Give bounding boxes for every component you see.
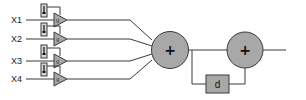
gain-amplifier-2: g — [54, 32, 67, 46]
svg-text:g: g — [56, 76, 59, 82]
input-channel-3: X3 g — [11, 45, 152, 68]
svg-text:g: g — [56, 36, 59, 42]
plus-icon: + — [164, 42, 176, 58]
input-label-x1: X1 — [11, 15, 22, 25]
delay-label: d — [215, 79, 221, 90]
input-channel-1: X1 g — [11, 4, 152, 40]
input-channel-2: X2 g — [11, 23, 152, 46]
svg-text:g: g — [56, 17, 59, 23]
input-label-x2: X2 — [11, 34, 22, 44]
input-label-x4: X4 — [11, 74, 22, 84]
svg-text:g: g — [56, 58, 59, 64]
block-diagram: X1 g X2 g X3 — [0, 0, 306, 100]
input-label-x3: X3 — [11, 56, 22, 66]
summing-junction-2: + — [227, 32, 263, 68]
summing-junction-1: + — [152, 32, 189, 69]
plus-icon: + — [239, 42, 251, 58]
gain-amplifier-1: g — [54, 13, 67, 27]
delay-block: d — [206, 75, 229, 93]
input-channel-4: X4 g — [11, 60, 152, 86]
gain-amplifier-4: g — [54, 72, 67, 86]
